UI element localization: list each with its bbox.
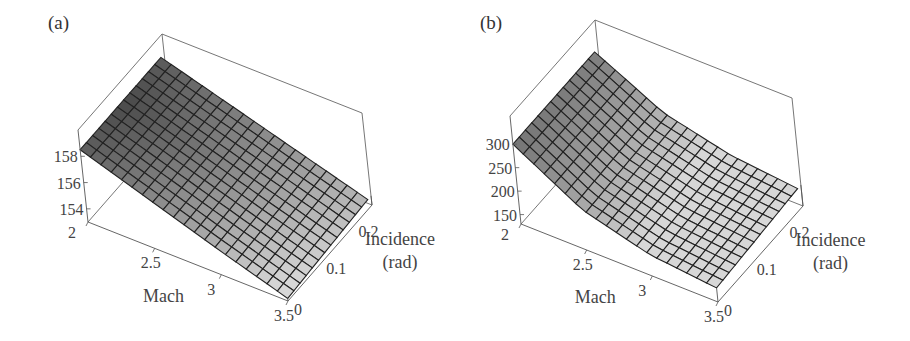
incidence-tick-label: 0 (724, 302, 732, 319)
z-tick-label: 156 (57, 175, 81, 192)
surface-mesh (80, 57, 368, 298)
mach-axis-title: Mach (575, 287, 616, 307)
mach-tick-label: 3.5 (274, 307, 294, 324)
incidence-axis-title: (rad) (813, 253, 848, 274)
surface-mesh (513, 52, 798, 288)
z-tick-label: 250 (488, 160, 512, 177)
z-tick-label: 150 (493, 207, 517, 224)
mach-tick-label: 2.5 (573, 256, 593, 273)
mach-axis-title: Mach (143, 286, 184, 306)
z-tick-label: 154 (60, 201, 84, 218)
incidence-tick-label: 0 (294, 301, 302, 318)
z-tick-label: 300 (486, 136, 510, 153)
mach-tick-label: 3 (207, 281, 215, 298)
incidence-axis-title: Incidence (796, 230, 866, 250)
mach-tick-label: 2 (501, 226, 509, 243)
incidence-axis-title: (rad) (383, 252, 418, 273)
surface-chart-b: 22.533.500.10.2150200250300MachIncidence… (455, 0, 910, 341)
mach-tick-label: 3 (638, 282, 646, 299)
surface-plot-b: (b) 22.533.500.10.2150200250300MachIncid… (455, 0, 910, 341)
mach-tick-label: 2.5 (141, 254, 161, 271)
surface-plot-a: (a) 22.533.500.10.2154156158MachIncidenc… (0, 0, 455, 341)
z-tick-label: 158 (54, 148, 78, 165)
z-tick-label: 200 (491, 183, 515, 200)
surface-chart-a: 22.533.500.10.2154156158MachIncidence(ra… (0, 0, 455, 341)
mach-tick-label: 3.5 (704, 308, 724, 325)
incidence-tick-label: 0.1 (757, 261, 777, 278)
incidence-tick-label: 0.1 (326, 260, 346, 277)
incidence-axis-title: Incidence (365, 229, 435, 249)
mach-tick-label: 2 (68, 224, 76, 241)
